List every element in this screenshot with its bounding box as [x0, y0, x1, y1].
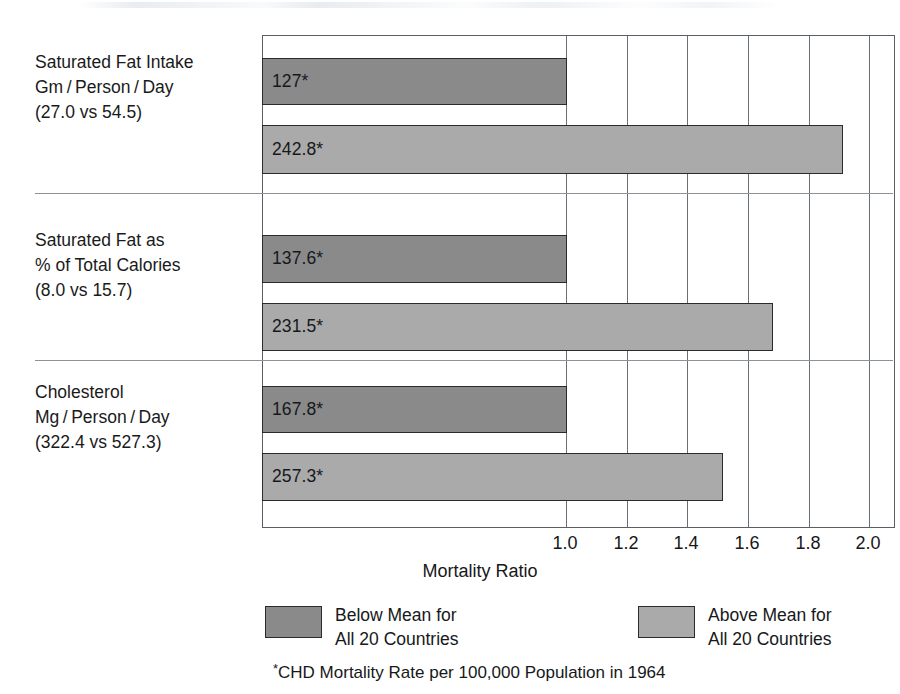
bar-below-mean-saturated-fat-percent-calories: 137.6* — [262, 235, 567, 283]
legend-label-below-mean: Below Mean for All 20 Countries — [335, 603, 459, 651]
chart-footnote: *CHD Mortality Rate per 100,000 Populati… — [273, 661, 666, 683]
legend-item-above-mean: Above Mean for All 20 Countries — [638, 603, 832, 651]
bar-value-label: 127* — [272, 71, 308, 92]
legend-label-line: All 20 Countries — [708, 627, 832, 651]
chart-plot-area: 127* 242.8* 137.6* 231.5* 167.8* 257.3* — [262, 35, 895, 528]
bar-above-mean-saturated-fat-percent-calories: 231.5* — [262, 303, 773, 351]
scan-artifact — [80, 2, 780, 8]
group-label-cholesterol: Cholesterol Mg / Person / Day (322.4 vs … — [35, 380, 260, 455]
group-label-line: Cholesterol — [35, 380, 260, 405]
x-tick-label-1.8: 1.8 — [795, 533, 820, 554]
x-tick-label-1.4: 1.4 — [673, 533, 698, 554]
bar-value-label: 167.8* — [272, 399, 323, 420]
bar-above-mean-cholesterol: 257.3* — [262, 453, 723, 501]
bar-below-mean-saturated-fat-intake: 127* — [262, 58, 567, 105]
legend-label-line: All 20 Countries — [335, 627, 459, 651]
group-label-line: Gm / Person / Day — [35, 75, 260, 100]
group-label-line: Mg / Person / Day — [35, 405, 260, 430]
bar-value-label: 257.3* — [272, 466, 323, 487]
gridline-1.6 — [748, 36, 749, 527]
gridline-1.8 — [809, 36, 810, 527]
legend-label-above-mean: Above Mean for All 20 Countries — [708, 603, 832, 651]
x-axis-title: Mortality Ratio — [0, 561, 900, 582]
bar-below-mean-cholesterol: 167.8* — [262, 386, 567, 433]
legend-label-line: Above Mean for — [708, 603, 832, 627]
legend-swatch-below-mean — [265, 606, 322, 638]
group-label-saturated-fat-percent-calories: Saturated Fat as % of Total Calories (8.… — [35, 228, 260, 303]
legend-label-line: Below Mean for — [335, 603, 459, 627]
legend-swatch-above-mean — [638, 606, 695, 638]
group-separator-1 — [35, 193, 893, 194]
gridline-2.0 — [869, 36, 870, 527]
x-tick-label-1.6: 1.6 — [734, 533, 759, 554]
legend-item-below-mean: Below Mean for All 20 Countries — [265, 603, 459, 651]
bar-above-mean-saturated-fat-intake: 242.8* — [262, 125, 843, 174]
group-label-line: (322.4 vs 527.3) — [35, 430, 260, 455]
x-tick-label-1.2: 1.2 — [613, 533, 638, 554]
group-label-line: Saturated Fat Intake — [35, 50, 260, 75]
x-tick-label-2.0: 2.0 — [855, 533, 880, 554]
group-label-saturated-fat-intake: Saturated Fat Intake Gm / Person / Day (… — [35, 50, 260, 125]
bar-value-label: 137.6* — [272, 248, 323, 269]
bar-value-label: 242.8* — [272, 139, 323, 160]
bar-value-label: 231.5* — [272, 316, 323, 337]
group-label-line: (8.0 vs 15.7) — [35, 278, 260, 303]
footnote-text: CHD Mortality Rate per 100,000 Populatio… — [278, 663, 665, 682]
x-tick-label-1.0: 1.0 — [552, 533, 577, 554]
group-separator-2 — [35, 360, 893, 361]
group-label-line: Saturated Fat as — [35, 228, 260, 253]
group-label-line: % of Total Calories — [35, 253, 260, 278]
group-label-line: (27.0 vs 54.5) — [35, 100, 260, 125]
